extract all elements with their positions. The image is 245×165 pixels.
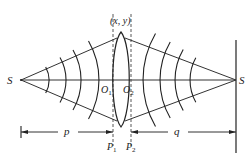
lens-point-label: (x, y) (110, 15, 131, 27)
p-arrow-right-head (106, 130, 113, 134)
source-label: S (7, 74, 13, 86)
plane-p1-label: P1 (106, 141, 117, 154)
q-arrow-right-head (229, 130, 236, 134)
ray-image-upper (125, 38, 236, 80)
vertex-o1-label: O1 (101, 84, 112, 97)
image-distance-label: q (174, 125, 180, 137)
object-distance-label: p (63, 125, 70, 137)
ray-source-upper (21, 38, 117, 80)
source-point (20, 79, 22, 81)
q-arrow-left-head (131, 130, 138, 134)
plane-p2-label: P2 (125, 141, 136, 154)
image-label: S' (239, 74, 245, 86)
lens-diagram: S S' (x, y) O1 O2 P1 P2 p q (0, 0, 245, 165)
p-arrow-left-head (21, 130, 28, 134)
ray-image-lower (125, 80, 236, 121)
